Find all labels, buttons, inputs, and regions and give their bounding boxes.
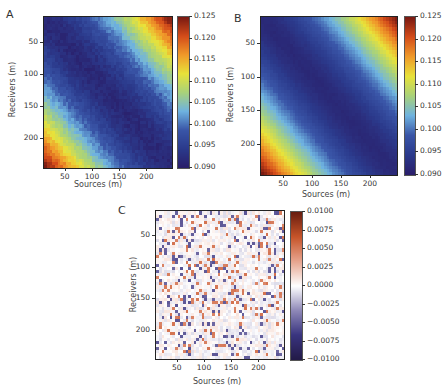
colorbar-tick-label: 0.125	[420, 12, 441, 20]
colorbar-tick-label: 0.0050	[307, 244, 333, 252]
y-tick-label: 150	[234, 106, 255, 114]
y-tick-label: 100	[17, 70, 38, 78]
colorbar-tick-mark	[302, 211, 305, 212]
x-tick-mark	[341, 175, 342, 178]
colorbar-tick-label: 0.0025	[307, 263, 333, 271]
y-tick-mark	[257, 144, 260, 145]
y-tick-mark	[40, 42, 43, 43]
x-tick-label: 50	[275, 180, 291, 188]
y-tick-mark	[152, 267, 155, 268]
panel-a-label: A	[6, 8, 14, 21]
colorbar-tick-mark	[302, 304, 305, 305]
colorbar-tick-mark	[302, 248, 305, 249]
colorbar-tick-label: 0.095	[194, 141, 215, 149]
colorbar-tick-mark	[302, 230, 305, 231]
colorbar-tick-mark	[302, 267, 305, 268]
y-tick-mark	[152, 298, 155, 299]
colorbar-tick-label: 0.095	[420, 147, 441, 155]
colorbar-tick-mark	[189, 59, 192, 60]
colorbar-tick-label: 0.105	[420, 102, 441, 110]
colorbar-tick-label: −0.0050	[307, 318, 340, 326]
x-tick-label: 50	[57, 173, 73, 181]
y-tick-mark	[40, 106, 43, 107]
x-axis-title-b: Sources (m)	[302, 190, 350, 199]
panel-b-label: B	[234, 12, 242, 25]
colorbar-tick-mark	[189, 16, 192, 17]
y-tick-label: 200	[234, 140, 255, 148]
heatmap-a	[43, 16, 173, 169]
x-tick-label: 200	[138, 173, 154, 181]
colorbar-tick-mark	[302, 322, 305, 323]
colorbar-tick-label: 0.0000	[307, 281, 333, 289]
y-axis-title-c: Receivers (m)	[129, 255, 138, 315]
colorbar-tick-mark	[415, 106, 418, 107]
heatmap-b	[260, 16, 398, 176]
colorbar-tick-label: 0.110	[420, 80, 441, 88]
heatmap-c	[155, 210, 285, 360]
colorbar-tick-label: 0.0075	[307, 226, 333, 234]
x-tick-mark	[65, 168, 66, 171]
y-tick-mark	[152, 235, 155, 236]
colorbar-tick-mark	[189, 102, 192, 103]
colorbar-tick-label: 0.115	[194, 55, 215, 63]
x-tick-mark	[370, 175, 371, 178]
colorbar-tick-label: −0.0075	[307, 337, 340, 345]
y-tick-mark	[257, 43, 260, 44]
colorbar-c	[290, 211, 303, 361]
x-tick-label: 50	[169, 364, 185, 372]
x-tick-label: 100	[304, 180, 320, 188]
x-tick-mark	[119, 168, 120, 171]
colorbar-tick-label: 0.120	[420, 35, 441, 43]
y-axis-title-a: Receivers (m)	[8, 60, 17, 120]
x-tick-mark	[177, 359, 178, 362]
colorbar-tick-label: −0.0025	[307, 300, 340, 308]
x-axis-title-c: Sources (m)	[193, 377, 241, 386]
x-tick-label: 150	[333, 180, 349, 188]
y-axis-title-b: Receivers (m)	[226, 65, 235, 125]
y-tick-label: 200	[17, 134, 38, 142]
y-tick-label: 100	[234, 73, 255, 81]
colorbar-tick-mark	[189, 145, 192, 146]
colorbar-tick-label: 0.100	[194, 120, 215, 128]
colorbar-tick-mark	[415, 39, 418, 40]
colorbar-tick-label: 0.120	[194, 34, 215, 42]
colorbar-tick-label: 0.125	[194, 12, 215, 20]
y-tick-label: 50	[234, 39, 255, 47]
y-tick-mark	[257, 77, 260, 78]
x-tick-mark	[312, 175, 313, 178]
x-tick-label: 200	[362, 180, 378, 188]
y-tick-mark	[257, 110, 260, 111]
colorbar-tick-label: 0.0100	[307, 207, 333, 215]
colorbar-tick-label: 0.115	[420, 57, 441, 65]
x-tick-mark	[92, 168, 93, 171]
colorbar-tick-mark	[302, 341, 305, 342]
x-tick-label: 200	[250, 364, 266, 372]
y-tick-label: 150	[17, 102, 38, 110]
colorbar-tick-mark	[189, 124, 192, 125]
y-tick-mark	[40, 138, 43, 139]
colorbar-tick-mark	[189, 81, 192, 82]
y-tick-mark	[152, 330, 155, 331]
x-tick-mark	[231, 359, 232, 362]
x-tick-mark	[146, 168, 147, 171]
x-axis-title-a: Sources (m)	[74, 180, 122, 189]
colorbar-tick-mark	[415, 129, 418, 130]
y-tick-label: 200	[129, 326, 150, 334]
colorbar-tick-mark	[189, 38, 192, 39]
y-tick-label: 50	[129, 231, 150, 239]
x-tick-mark	[258, 359, 259, 362]
panel-c-label: C	[118, 204, 126, 217]
colorbar-tick-label: 0.105	[194, 98, 215, 106]
colorbar-tick-mark	[415, 61, 418, 62]
colorbar-tick-mark	[415, 84, 418, 85]
colorbar-tick-mark	[302, 359, 305, 360]
colorbar-tick-mark	[415, 174, 418, 175]
x-tick-mark	[283, 175, 284, 178]
x-tick-label: 150	[223, 364, 239, 372]
x-tick-mark	[204, 359, 205, 362]
colorbar-tick-mark	[302, 285, 305, 286]
colorbar-tick-label: 0.100	[420, 125, 441, 133]
colorbar-tick-mark	[415, 16, 418, 17]
y-tick-mark	[40, 74, 43, 75]
colorbar-tick-label: 0.090	[194, 163, 215, 171]
